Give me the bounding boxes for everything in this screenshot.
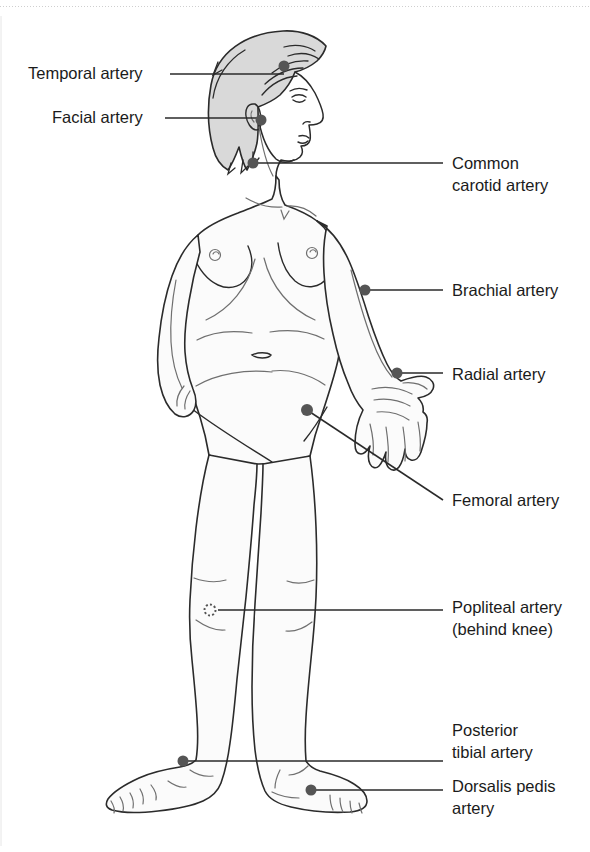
pulse-point-marker-temporal[interactable]	[279, 61, 290, 72]
label-line: Common	[452, 154, 519, 172]
annotation-femoral: Femoral artery	[301, 404, 560, 509]
pulse-point-marker-facial[interactable]	[256, 115, 267, 126]
label-brachial: Brachial artery	[452, 281, 559, 299]
eyebrow	[290, 89, 307, 91]
label-line: Facial artery	[52, 108, 144, 126]
label-line: Popliteal artery	[452, 598, 563, 616]
nostril	[303, 122, 310, 124]
label-posterior-tibial: Posteriortibial artery	[452, 721, 533, 761]
label-line: Radial artery	[452, 365, 546, 383]
jawline	[259, 122, 294, 162]
human-figure	[106, 31, 433, 813]
neck-line	[259, 127, 273, 176]
leg-right-outline	[252, 456, 367, 812]
pulse-point-marker-brachial[interactable]	[360, 285, 371, 296]
label-dorsalis-pedis: Dorsalis pedisartery	[452, 777, 556, 817]
eye-lower-lid	[293, 100, 305, 102]
pulse-point-marker-posterior-tibial[interactable]	[178, 756, 189, 767]
label-line: Posterior	[452, 721, 519, 739]
upper-lip	[299, 136, 309, 138]
label-line: Dorsalis pedis	[452, 777, 556, 795]
label-line: carotid artery	[452, 176, 549, 194]
lower-lip	[298, 141, 308, 143]
diagram-canvas: Temporal arteryFacial arteryCommoncaroti…	[0, 0, 590, 852]
pulse-point-marker-dorsalis-pedis[interactable]	[306, 785, 317, 796]
label-line: (behind knee)	[452, 620, 553, 638]
label-line: Temporal artery	[28, 64, 143, 82]
artery-diagram: Temporal arteryFacial arteryCommoncaroti…	[0, 0, 590, 852]
label-temporal: Temporal artery	[28, 64, 143, 82]
label-line: Femoral artery	[452, 491, 560, 509]
label-line: tibial artery	[452, 743, 533, 761]
pulse-point-marker-radial[interactable]	[392, 368, 403, 379]
annotation-brachial: Brachial artery	[360, 281, 560, 299]
label-line: Brachial artery	[452, 281, 559, 299]
eye-upper-lid	[292, 95, 306, 97]
label-common-carotid: Commoncarotid artery	[452, 154, 549, 194]
label-femoral: Femoral artery	[452, 491, 560, 509]
label-facial: Facial artery	[52, 108, 144, 126]
torso-outline	[180, 176, 344, 464]
label-line: artery	[452, 799, 495, 817]
label-radial: Radial artery	[452, 365, 546, 383]
hair-shape	[208, 31, 326, 170]
pulse-point-marker-common-carotid[interactable]	[248, 158, 259, 169]
pulse-point-marker-femoral[interactable]	[301, 404, 313, 416]
label-popliteal: Popliteal artery(behind knee)	[452, 598, 563, 638]
